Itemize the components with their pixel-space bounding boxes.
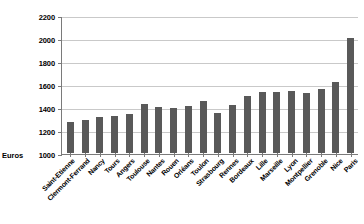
y-tick-label: 1200 (0, 128, 55, 137)
bar[interactable] (318, 89, 325, 153)
bar-slot (270, 17, 285, 153)
bar-slot (152, 17, 167, 153)
bar[interactable] (214, 113, 221, 153)
y-tick-label: 1800 (0, 59, 55, 68)
bar-slot (196, 17, 211, 153)
bar-chart: 2200200018001600140012001000Euros Saint-… (0, 0, 364, 224)
bar-slot (122, 17, 137, 153)
bar[interactable] (347, 38, 354, 153)
bar-slot (329, 17, 344, 153)
bar-slot (78, 17, 93, 153)
bar[interactable] (111, 116, 118, 153)
y-axis-title: Euros (2, 151, 23, 160)
bar[interactable] (155, 107, 162, 153)
bar[interactable] (82, 120, 89, 153)
y-tick-mark (58, 155, 62, 156)
x-tick-label: Nice (329, 157, 344, 172)
bar-slot (343, 17, 358, 153)
bar-slot (93, 17, 108, 153)
y-tick-label: 1400 (0, 105, 55, 114)
bar[interactable] (288, 91, 295, 153)
bar[interactable] (126, 114, 133, 153)
bar-slot (107, 17, 122, 153)
bar[interactable] (67, 122, 74, 153)
y-tick-label: 2000 (0, 36, 55, 45)
bar[interactable] (170, 108, 177, 153)
bar-slot (240, 17, 255, 153)
bar[interactable] (229, 105, 236, 153)
y-tick-mark (58, 63, 62, 64)
bar-series (63, 17, 358, 153)
bar-slot (225, 17, 240, 153)
bar[interactable] (259, 92, 266, 153)
bar[interactable] (244, 96, 251, 154)
bar-slot (181, 17, 196, 153)
bar[interactable] (200, 101, 207, 153)
bar-slot (166, 17, 181, 153)
bar-slot (63, 17, 78, 153)
bar[interactable] (303, 93, 310, 153)
y-tick-mark (58, 132, 62, 133)
bar[interactable] (332, 82, 339, 153)
plot-area (61, 17, 358, 155)
x-tick-label: Paris (342, 157, 359, 174)
y-tick-mark (58, 17, 62, 18)
y-tick-mark (58, 86, 62, 87)
x-axis-labels: Saint-EtienneClermont-FerrandNancyToursA… (61, 157, 358, 223)
bar-slot (299, 17, 314, 153)
bar[interactable] (96, 117, 103, 153)
bar[interactable] (141, 104, 148, 153)
bar-slot (314, 17, 329, 153)
bar[interactable] (185, 106, 192, 153)
bar-slot (211, 17, 226, 153)
bar-slot (284, 17, 299, 153)
y-tick-label: 1600 (0, 82, 55, 91)
bar-slot (137, 17, 152, 153)
y-tick-mark (58, 40, 62, 41)
y-tick-label: 2200 (0, 13, 55, 22)
bar-slot (255, 17, 270, 153)
y-tick-mark (58, 109, 62, 110)
bar[interactable] (273, 92, 280, 153)
